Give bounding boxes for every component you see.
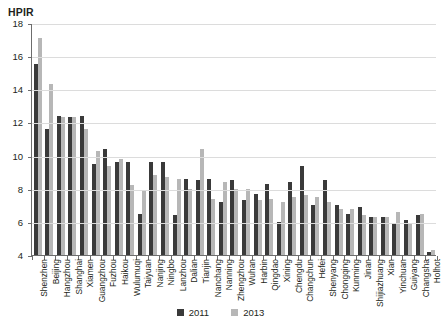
bar-2013	[304, 195, 308, 255]
x-axis-label: Harbin	[260, 259, 268, 284]
bar-group	[78, 24, 90, 255]
bar-2013	[420, 214, 424, 255]
x-axis-label: Lanzhou	[179, 259, 187, 291]
legend-label-2011: 2011	[189, 307, 209, 318]
bar-group	[148, 24, 160, 255]
bar-group	[101, 24, 113, 255]
bar-2013	[315, 197, 319, 255]
bar-group	[379, 24, 391, 255]
bar-group	[171, 24, 183, 255]
bar-group	[194, 24, 206, 255]
y-tick-mark	[28, 123, 32, 124]
x-axis-label: Shenzhen	[40, 259, 48, 297]
x-axis-label: Nanchang	[214, 259, 222, 297]
y-tick-label: 6	[0, 218, 23, 228]
bar-2013	[130, 185, 134, 255]
bar-group	[263, 24, 275, 255]
bar-2013	[327, 202, 331, 255]
x-axis-label: Shenyang	[329, 259, 337, 297]
bar-2013	[281, 202, 285, 255]
bar-group	[240, 24, 252, 255]
bar-group	[125, 24, 137, 255]
bar-2013	[84, 129, 88, 255]
bar-group	[252, 24, 264, 255]
y-tick-mark	[28, 90, 32, 91]
x-axis-label: Xian	[387, 259, 395, 276]
bar-group	[391, 24, 403, 255]
bar-group	[44, 24, 56, 255]
legend-swatch-icon-2013	[231, 309, 238, 316]
bar-group	[425, 24, 437, 255]
x-axis-label: Haikou	[121, 259, 129, 285]
x-axis-label: Xiamen	[86, 259, 94, 287]
bar-2013	[362, 215, 366, 255]
bar-2013	[269, 199, 273, 255]
bar-2013	[72, 117, 76, 255]
y-tick-mark	[28, 57, 32, 58]
gridline	[32, 90, 436, 91]
gridline	[32, 190, 436, 191]
x-axis-label: Guiyang	[410, 259, 418, 290]
bar-2013	[153, 175, 157, 255]
x-axis-label: Jinan	[364, 259, 372, 279]
bar-2013	[211, 199, 215, 255]
x-axis-label: Wulumuqi	[133, 259, 141, 296]
y-tick-mark	[28, 24, 32, 25]
bar-2013	[350, 209, 354, 255]
gridline	[32, 57, 436, 58]
x-axis-label: Changchun	[306, 259, 314, 302]
y-tick-label: 14	[0, 85, 23, 95]
x-axis-label: Chengdu	[295, 259, 303, 293]
x-axis-label: Fuzhou	[109, 259, 117, 287]
bar-2013	[61, 117, 65, 255]
bar-2013	[339, 209, 343, 255]
x-axis-label: Nanjing	[156, 259, 164, 287]
y-tick-label: 8	[0, 185, 23, 195]
x-axis-label: Wuhan	[248, 259, 256, 285]
x-axis-label: Zhengzhou	[237, 259, 245, 301]
bar-2013	[431, 250, 435, 255]
bar-2013	[408, 224, 412, 255]
x-axis-label: Dalian	[190, 259, 198, 283]
bar-group	[159, 24, 171, 255]
bar-group	[275, 24, 287, 255]
y-tick-label: 18	[0, 19, 23, 29]
bar-group	[217, 24, 229, 255]
bar-group	[90, 24, 102, 255]
y-tick-mark	[28, 157, 32, 158]
bar-2013	[96, 151, 100, 255]
bar-group	[287, 24, 299, 255]
legend-swatch-icon-2011	[177, 309, 184, 316]
y-tick-label: 16	[0, 52, 23, 62]
bars-layer	[32, 24, 436, 255]
x-axis-label: Hefei	[318, 259, 326, 279]
legend-item-2013: 2013	[231, 307, 264, 318]
bar-2013	[292, 197, 296, 255]
bar-group	[368, 24, 380, 255]
bar-2013	[258, 200, 262, 255]
bar-2013	[49, 84, 53, 255]
bar-2013	[200, 149, 204, 255]
x-axis-label: Guangzhou	[98, 259, 106, 302]
gridline	[32, 123, 436, 124]
x-axis-label: Shanghai	[75, 259, 83, 294]
y-tick-label: 12	[0, 118, 23, 128]
gridline	[32, 24, 436, 25]
bar-group	[414, 24, 426, 255]
bar-group	[136, 24, 148, 255]
x-axis-label: Qingdao	[271, 259, 279, 291]
chart-title: HPIR	[8, 6, 34, 18]
x-axis-label: Ningbo	[167, 259, 175, 286]
gridline	[32, 157, 436, 158]
bar-group	[310, 24, 322, 255]
bar-group	[206, 24, 218, 255]
bar-group	[32, 24, 44, 255]
gridline	[32, 223, 436, 224]
bar-group	[182, 24, 194, 255]
y-tick-label: 10	[0, 152, 23, 162]
x-axis-label: Kunming	[352, 259, 360, 292]
x-axis-label: Shijiazhuang	[376, 259, 384, 307]
x-axis-label: Changsha	[422, 259, 430, 297]
bar-2013	[396, 212, 400, 255]
x-axis-label: Yinchuan	[399, 259, 407, 294]
